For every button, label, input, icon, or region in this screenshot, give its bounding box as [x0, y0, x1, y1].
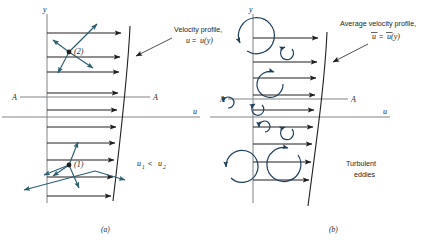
panel-a-point-2-label: (2) [74, 47, 84, 56]
panel-a-point-1-dot [67, 163, 72, 168]
panel-a-inequality-rhs-sub: 2 [163, 164, 166, 170]
panel-a-inequality-lhs: u [137, 159, 141, 168]
panel-b-callout-u-rhs: u(y) [387, 32, 400, 41]
panel-b-y-axis-label: y [248, 5, 253, 14]
panel-a-section-label-right: A [152, 93, 158, 102]
panel-b-callout-equals: = [379, 32, 383, 41]
panel-b-eddies-label-line2: eddies [354, 170, 376, 179]
panel-a-inequality-operator: < [148, 159, 152, 168]
panel-a-callout-line1: Velocity profile, [174, 25, 222, 34]
panel-a-point-1-label: (1) [74, 160, 84, 169]
panel-a-callout-u-lhs: u [186, 36, 190, 45]
panel-a-section-label-left: A [11, 93, 17, 102]
panel-a-point-2-dot [67, 50, 72, 55]
panel-b-callout-line1: Average velocity profile, [340, 19, 416, 28]
panel-a-caption: (a) [101, 225, 110, 234]
panel-b-callout-u-lhs: u [372, 32, 376, 41]
panel-b-u-axis-label: u [383, 107, 387, 116]
fluid-flow-diagram: y u A A [0, 0, 447, 247]
panel-a-callout-equals: = [192, 36, 196, 45]
panel-b-caption: (b) [329, 225, 338, 234]
panel-b-section-label-right: A [350, 95, 356, 104]
panel-a-u-axis-label: u [193, 107, 197, 116]
panel-a-callout-u-rhs: u(y) [200, 36, 213, 45]
panel-a-inequality-rhs: u [158, 159, 162, 168]
panel-b-eddies-label-line1: Turbulent [346, 159, 376, 168]
panel-a-y-axis-label: y [42, 5, 47, 14]
panel-a-inequality-lhs-sub: 1 [142, 164, 145, 170]
